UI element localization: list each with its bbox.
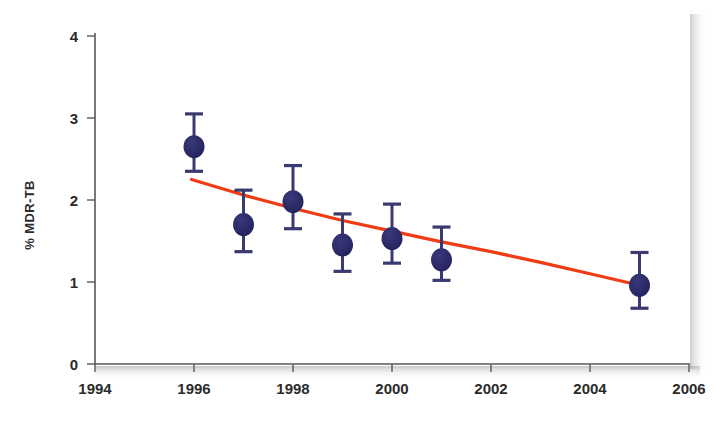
data-point-marker <box>283 190 304 213</box>
x-tick-label-2004: 2004 <box>573 380 607 397</box>
data-points-layer <box>184 114 651 308</box>
y-tick-label-2: 2 <box>70 192 78 209</box>
data-point-marker <box>382 227 403 250</box>
panel-shadow-right <box>690 14 706 369</box>
data-point-marker <box>629 274 650 297</box>
data-point-group <box>233 190 254 252</box>
data-point-marker <box>233 213 254 236</box>
y-tick-label-1: 1 <box>70 274 78 291</box>
axes-group: 4 3 2 1 0 1994 1996 1998 2000 2002 2004 … <box>22 28 706 397</box>
data-point-group <box>382 204 403 263</box>
data-point-group <box>431 227 452 280</box>
trend-line <box>192 180 640 286</box>
x-tick-label-2002: 2002 <box>474 380 507 397</box>
data-point-group <box>283 166 304 229</box>
y-tick-label-0: 0 <box>70 356 78 373</box>
y-axis-title: % MDR-TB <box>22 180 37 250</box>
data-point-marker <box>332 234 353 257</box>
y-tick-label-3: 3 <box>70 110 78 127</box>
data-point-group <box>629 252 650 308</box>
data-point-group <box>184 114 205 171</box>
axis-shadow <box>95 366 700 380</box>
data-point-marker <box>431 248 452 271</box>
x-tick-label-1994: 1994 <box>78 380 112 397</box>
chart-figure: 4 3 2 1 0 1994 1996 1998 2000 2002 2004 … <box>0 0 717 422</box>
x-tick-label-1998: 1998 <box>276 380 309 397</box>
scatter-plot-svg: 4 3 2 1 0 1994 1996 1998 2000 2002 2004 … <box>0 0 717 422</box>
x-tick-label-2000: 2000 <box>375 380 408 397</box>
x-tick-label-1996: 1996 <box>177 380 210 397</box>
y-tick-label-4: 4 <box>70 28 79 45</box>
x-tick-label-2006: 2006 <box>672 380 705 397</box>
y-axis-ticks <box>87 36 95 364</box>
data-point-marker <box>184 135 205 158</box>
